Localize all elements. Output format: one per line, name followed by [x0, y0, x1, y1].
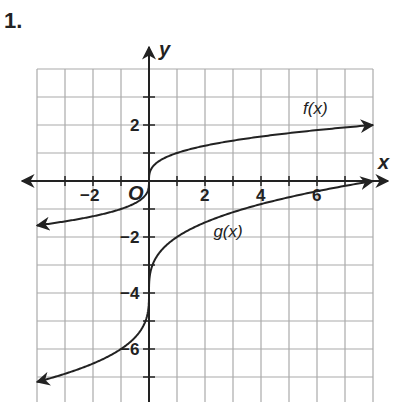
x-tick-label: 6	[312, 186, 321, 205]
y-tick-label: −2	[120, 228, 139, 247]
origin-label: O	[128, 182, 144, 204]
x-tick-label: 2	[200, 186, 209, 205]
y-axis-label: y	[158, 38, 171, 60]
y-tick-label: 2	[130, 116, 139, 135]
x-axis-label: x	[377, 151, 390, 173]
graph: −22462−2−4−6Oxyf(x)g(x)	[0, 0, 394, 402]
y-tick-label: −4	[120, 284, 140, 303]
f-label: f(x)	[303, 99, 328, 118]
x-tick-label: −2	[80, 186, 99, 205]
x-tick-label: 4	[256, 186, 266, 205]
g-label: g(x)	[213, 222, 242, 241]
